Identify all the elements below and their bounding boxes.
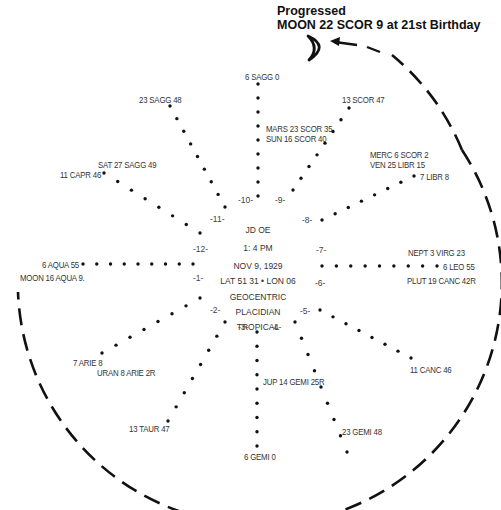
spoke-dot: [255, 359, 258, 362]
arrow-head-icon: [330, 37, 340, 46]
spoke-dot: [313, 369, 316, 372]
spoke-dot: [170, 312, 173, 315]
spoke-dot: [143, 197, 146, 200]
spoke-dot: [256, 138, 259, 141]
spoke-dot: [166, 419, 169, 422]
title-line-1: Progressed: [277, 4, 346, 18]
spoke-dot: [409, 356, 412, 359]
spoke-dot: [386, 187, 389, 190]
cusp-label-4: 6 GEMI 0: [244, 452, 276, 462]
spoke-dot: [435, 264, 438, 267]
spoke-dot: [198, 296, 201, 299]
spoke-dot: [399, 181, 402, 184]
spoke-dot: [255, 444, 258, 447]
spoke-dot: [363, 264, 366, 267]
cusp-label-7: 6 LEO 55: [443, 262, 475, 272]
spoke-dot: [345, 450, 348, 453]
title-line-2: MOON 22 SCOR 9 at 21st Birthday: [277, 18, 481, 32]
house-8: -8-: [302, 215, 312, 225]
spoke-dot: [392, 264, 395, 267]
spoke-dot: [256, 152, 259, 155]
spoke-dot: [256, 124, 259, 127]
chart-info-system: PLACIDIAN: [208, 307, 308, 317]
spoke-dot: [114, 343, 117, 346]
spoke-dot: [291, 188, 294, 191]
cusp-label-9: 13 SCOR 47: [342, 95, 385, 105]
spoke-dot: [357, 329, 360, 332]
spoke-dot: [255, 345, 258, 348]
planet-neptune: NEPT 3 VIRG 23: [408, 248, 465, 258]
cusp-label-3: 13 TAUR 47: [129, 424, 169, 434]
spoke-dot: [215, 334, 218, 337]
spoke-dot: [185, 223, 188, 226]
spoke-dot: [255, 402, 258, 405]
spoke-dot: [123, 262, 126, 265]
chart-info-geocentric: GEOCENTRIC: [208, 292, 308, 302]
spoke-dot: [171, 214, 174, 217]
spoke-dot: [396, 349, 399, 352]
spoke-dot: [421, 264, 424, 267]
cusp-label-6: 11 CANC 46: [410, 365, 451, 375]
chart-info-zodiac: TROPICAL: [208, 322, 308, 332]
cusp-label-1: 6 AQUA 55: [42, 260, 79, 270]
spoke-dot: [256, 180, 259, 183]
spoke-dot: [383, 343, 386, 346]
spoke-dot: [299, 177, 302, 180]
planet-venus: VEN 25 LIBR 15: [370, 160, 425, 170]
spoke-dot: [256, 96, 259, 99]
spoke-dot: [320, 264, 323, 267]
spoke-dot: [81, 262, 84, 265]
spoke-dot: [360, 199, 363, 202]
spoke-dot: [207, 349, 210, 352]
spoke-dot: [198, 231, 201, 234]
spoke-dot: [256, 82, 259, 85]
spoke-dot: [136, 262, 139, 265]
spoke-dot: [184, 304, 187, 307]
planet-saturn: SAT 27 SAGG 49: [98, 160, 156, 170]
spoke-dot: [150, 262, 153, 265]
spoke-dot: [178, 262, 181, 265]
cusp-label-2: 7 ARIE 8: [73, 358, 102, 368]
spoke-dot: [255, 416, 258, 419]
spoke-dot: [332, 418, 335, 421]
house-9: -9-: [275, 195, 285, 205]
spoke-dot: [306, 353, 309, 356]
spoke-dot: [128, 336, 131, 339]
spoke-dot: [174, 405, 177, 408]
spoke-dot: [102, 171, 105, 174]
spoke-dot: [255, 373, 258, 376]
house-11: -11-: [210, 214, 225, 224]
chart-info-name: JD OE: [208, 225, 308, 235]
planet-jupiter: JUP 14 GEMI 25R: [263, 377, 324, 387]
spoke-dot: [182, 130, 185, 133]
spoke-dot: [256, 194, 259, 197]
spoke-dot: [347, 206, 350, 209]
spoke-dot: [255, 387, 258, 390]
planet-pluto: PLUT 19 CANC 42R: [407, 276, 476, 286]
house-7: -7-: [316, 245, 326, 255]
cusp-label-5: 23 GEMI 48: [342, 427, 382, 437]
spoke-dot: [196, 155, 199, 158]
spoke-dot: [95, 262, 98, 265]
spoke-dot: [256, 166, 259, 169]
spoke-dot: [339, 118, 342, 121]
spoke-dot: [142, 328, 145, 331]
house-5: -5-: [300, 306, 310, 316]
spoke-dot: [347, 106, 350, 109]
house-2: -2-: [210, 305, 220, 315]
spoke-dot: [373, 193, 376, 196]
spoke-dot: [344, 322, 347, 325]
spoke-dot: [335, 264, 338, 267]
spoke-dot: [349, 264, 352, 267]
spoke-dot: [216, 193, 219, 196]
planet-uranus: URAN 8 ARIE 2R: [97, 368, 155, 378]
spoke-dot: [307, 165, 310, 168]
house-12: -12-: [193, 244, 208, 254]
spoke-dot: [407, 264, 410, 267]
spoke-dot: [370, 336, 373, 339]
house-10: -10-: [238, 195, 253, 205]
spoke-dot: [116, 180, 119, 183]
spoke-dot: [331, 315, 334, 318]
spoke-dot: [326, 402, 329, 405]
spoke-dot: [320, 218, 323, 221]
